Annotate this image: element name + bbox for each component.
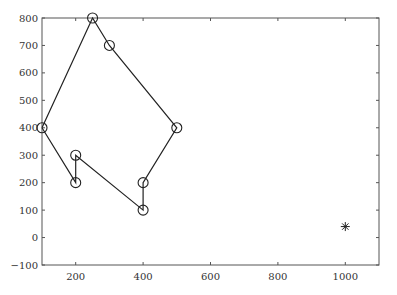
y-tick-label: 400	[19, 122, 38, 133]
x-tick-label: 200	[66, 271, 85, 282]
y-tick-label: 300	[19, 150, 38, 161]
y-tick-label: 800	[19, 13, 38, 24]
x-tick-label: 800	[268, 271, 287, 282]
series-closed-path	[37, 13, 182, 215]
axis-ticks	[42, 18, 379, 265]
y-tick-label: 200	[19, 177, 38, 188]
x-axis-tick-labels: 2004006008001000	[66, 271, 358, 282]
x-tick-label: 1000	[333, 271, 358, 282]
x-tick-label: 600	[201, 271, 220, 282]
y-tick-label: −100	[11, 260, 38, 271]
plot-frame	[42, 18, 379, 265]
x-tick-label: 400	[134, 271, 153, 282]
y-tick-label: 600	[19, 67, 38, 78]
line-chart: 2004006008001000 −1000100200300400500600…	[0, 0, 397, 295]
plot-border	[42, 18, 379, 265]
y-tick-label: 500	[19, 95, 38, 106]
y-tick-label: 100	[19, 205, 38, 216]
series-point	[341, 222, 350, 231]
y-tick-label: 0	[32, 232, 38, 243]
y-axis-tick-labels: −1000100200300400500600700800	[11, 13, 38, 271]
y-tick-label: 700	[19, 40, 38, 51]
series-line	[42, 18, 177, 210]
data-series	[37, 13, 350, 231]
